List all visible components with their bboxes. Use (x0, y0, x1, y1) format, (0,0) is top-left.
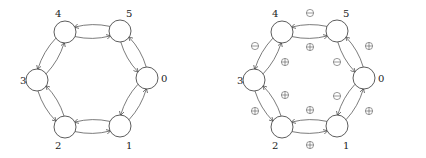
node-label-4: 4 (55, 8, 61, 19)
edge-arrow-0-to-1 (121, 84, 138, 115)
edge-arrow-2-to-3 (263, 86, 281, 116)
edge-arrow-3-to-2 (255, 91, 273, 121)
node-2 (271, 116, 293, 138)
edge-arrow-0-to-5 (129, 37, 146, 67)
edge-arrow-2-to-1 (292, 131, 327, 133)
circled-plus-icon (306, 106, 313, 113)
node-3 (243, 69, 265, 91)
edge-arrow-5-to-0 (121, 42, 138, 72)
node-label-5: 5 (126, 8, 132, 19)
edge-arrow-0-to-5 (346, 37, 363, 67)
node-5 (109, 20, 131, 42)
node-label-1: 1 (126, 140, 132, 151)
node-label-3: 3 (20, 75, 26, 86)
edge-arrow-3-to-2 (38, 91, 56, 121)
node-4 (271, 21, 293, 43)
node-label-0: 0 (378, 73, 384, 84)
edge-arrow-4-to-3 (255, 38, 273, 69)
circled-plus-icon (281, 58, 288, 65)
edge-arrow-3-to-4 (263, 43, 281, 74)
edge-arrow-2-to-3 (46, 86, 64, 116)
edge-arrow-0-to-1 (338, 84, 355, 115)
node-label-3: 3 (237, 75, 243, 86)
edge-arrow-1-to-2 (292, 120, 327, 122)
edge-arrow-1-to-2 (75, 120, 110, 122)
node-2 (54, 116, 76, 138)
edge-arrow-5-to-4 (292, 25, 327, 27)
node-1 (109, 115, 131, 137)
node-label-2: 2 (55, 140, 61, 151)
node-label-4: 4 (272, 8, 278, 19)
node-5 (326, 20, 348, 42)
edge-arrow-5-to-0 (338, 42, 355, 72)
node-label-2: 2 (272, 140, 278, 151)
node-label-5: 5 (343, 8, 349, 19)
signed-ring-graph: 012345 (237, 8, 384, 151)
node-0 (353, 67, 375, 89)
circled-plus-icon (251, 107, 258, 114)
edge-arrow-3-to-4 (46, 43, 64, 74)
edge-arrow-1-to-0 (346, 89, 363, 120)
edge-arrow-5-to-4 (75, 25, 110, 27)
circled-minus-icon (251, 42, 258, 49)
node-label-0: 0 (161, 73, 167, 84)
node-4 (54, 21, 76, 43)
edge-arrow-4-to-5 (292, 36, 327, 38)
edge-arrow-2-to-1 (75, 131, 110, 133)
node-1 (326, 115, 348, 137)
node-3 (26, 69, 48, 91)
circled-plus-icon (306, 43, 313, 50)
circled-plus-icon (306, 141, 313, 148)
circled-plus-icon (281, 91, 288, 98)
node-0 (136, 67, 158, 89)
edge-arrow-4-to-5 (75, 36, 110, 38)
unsigned-ring-graph: 012345 (20, 8, 167, 151)
edge-arrow-1-to-0 (129, 89, 146, 120)
edge-arrow-4-to-3 (38, 38, 56, 69)
circled-minus-icon (333, 58, 340, 65)
diagram-canvas: 012345 012345 (0, 0, 426, 158)
circled-plus-icon (365, 107, 372, 114)
node-label-1: 1 (343, 140, 349, 151)
circled-minus-icon (333, 92, 340, 99)
circled-minus-icon (306, 9, 313, 16)
circled-plus-icon (365, 42, 372, 49)
